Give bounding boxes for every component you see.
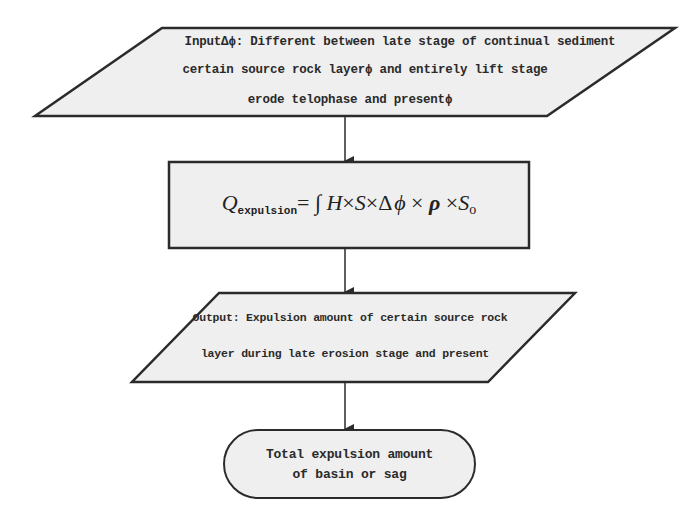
formula-q: Q [222,190,238,215]
output-text-line-1: Output: Expulsion amount of certain sour… [185,311,515,324]
formula-times: × [411,190,423,215]
formula-q-subscript: expulsion [238,205,297,217]
formula-phi: ϕ [394,190,405,215]
formula-h: H [326,190,342,215]
formula-integral: ∫ [315,190,321,215]
total-text-line-1: Total expulsion amount [224,447,475,462]
expulsion-formula: Qexpulsion= ∫ H×S×Δ ϕ × ρ ×So [169,190,529,218]
formula-rho: ρ [429,190,440,215]
formula-times: × [446,190,458,215]
formula-equals: = [297,190,309,215]
formula-s-o: S [458,190,469,215]
formula-s: S [355,190,366,215]
total-terminal [224,430,475,498]
input-text-line-3: erode telophase and presentϕ [130,93,570,107]
input-text-line-1: InputΔϕ: Different between late stage of… [150,35,650,49]
formula-delta: Δ [378,190,392,215]
output-parallelogram [132,293,575,382]
formula-times: × [366,190,378,215]
formula-times: × [342,190,354,215]
input-text-line-2: certain source rock layerϕ and entirely … [105,63,625,77]
formula-s-o-subscript: o [469,202,476,217]
total-text-line-2: of basin or sag [224,467,475,482]
output-text-line-2: layer during late erosion stage and pres… [180,347,510,360]
